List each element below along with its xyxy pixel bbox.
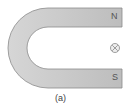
- figure-caption: (a): [55, 93, 66, 103]
- north-pole-label: N: [111, 11, 118, 21]
- magnet-body: [8, 8, 122, 88]
- south-pole-label: S: [112, 72, 118, 82]
